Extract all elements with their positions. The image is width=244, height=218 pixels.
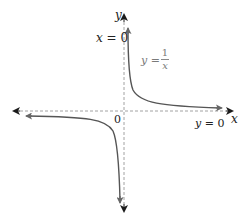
horizontal-asymptote-eq: = [205, 117, 214, 130]
vertical-asymptote-lhs: x [96, 31, 103, 45]
x-axis-label: x [231, 113, 238, 125]
x-axis-label-text: x [231, 112, 238, 126]
horizontal-asymptote-lhs: y [195, 117, 201, 130]
horizontal-asymptote-label: y = 0 [195, 118, 224, 129]
reciprocal-function-graph: y x = 0 y = 1 x 0 y = 0 x [0, 0, 244, 218]
y-axis-label-text: y [115, 8, 122, 22]
curve-label-fraction: 1 x [161, 48, 169, 71]
fraction-numerator: 1 [161, 48, 169, 58]
fraction-denominator: x [161, 61, 169, 71]
vertical-asymptote-eq: = [107, 31, 117, 45]
curve-label-eq: = [151, 54, 160, 67]
curve-label: y = [141, 55, 160, 66]
curve-branch-first-quadrant [128, 30, 220, 108]
origin-label: 0 [114, 114, 121, 125]
y-axis-label: y [115, 9, 122, 21]
horizontal-asymptote-rhs: 0 [217, 117, 224, 130]
curve-label-lhs: y [141, 54, 147, 67]
vertical-asymptote-label: x = 0 [96, 32, 128, 44]
vertical-asymptote-rhs: 0 [121, 31, 129, 45]
curve-branch-third-quadrant [28, 116, 120, 200]
